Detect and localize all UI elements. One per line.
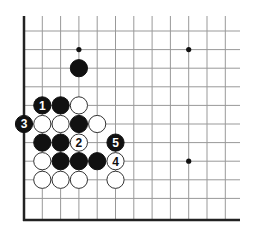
white-stone bbox=[89, 115, 106, 132]
black-stone-icon bbox=[70, 115, 87, 132]
black-stone bbox=[34, 134, 51, 151]
black-stone-icon bbox=[89, 153, 106, 170]
black-stone: 3 bbox=[15, 115, 32, 132]
black-stone bbox=[52, 97, 69, 114]
star-point-icon bbox=[186, 159, 191, 164]
move-number-label: 2 bbox=[76, 136, 83, 150]
black-stone bbox=[70, 115, 87, 132]
black-stone-icon bbox=[52, 97, 69, 114]
star-point-icon bbox=[186, 47, 191, 52]
black-stone-icon bbox=[34, 134, 51, 151]
black-stone bbox=[70, 60, 87, 77]
white-stone bbox=[52, 115, 69, 132]
star-point-icon bbox=[76, 47, 81, 52]
move-number-label: 5 bbox=[112, 136, 119, 150]
black-stone-icon bbox=[70, 60, 87, 77]
move-number-label: 4 bbox=[112, 155, 119, 169]
white-stone-icon bbox=[52, 115, 69, 132]
move-number-label: 3 bbox=[21, 117, 28, 131]
white-stone: 2 bbox=[70, 134, 87, 151]
black-stone bbox=[52, 134, 69, 151]
white-stone-icon bbox=[34, 115, 51, 132]
white-stone-icon bbox=[107, 171, 124, 188]
move-number-label: 1 bbox=[39, 99, 46, 113]
white-stone bbox=[34, 115, 51, 132]
black-stone-icon bbox=[70, 153, 87, 170]
white-stone-icon bbox=[52, 171, 69, 188]
black-stone: 5 bbox=[107, 134, 124, 151]
black-stone-icon bbox=[52, 134, 69, 151]
black-stone-icon bbox=[52, 153, 69, 170]
go-board: 13254 bbox=[0, 0, 257, 232]
white-stone-icon bbox=[89, 115, 106, 132]
white-stone-icon bbox=[34, 153, 51, 170]
white-stone bbox=[52, 171, 69, 188]
black-stone bbox=[89, 153, 106, 170]
white-stone bbox=[70, 97, 87, 114]
black-stone bbox=[52, 153, 69, 170]
white-stone-icon bbox=[34, 171, 51, 188]
white-stone-icon bbox=[70, 171, 87, 188]
white-stone bbox=[34, 153, 51, 170]
black-stone bbox=[70, 153, 87, 170]
white-stone bbox=[34, 171, 51, 188]
black-stone: 1 bbox=[34, 97, 51, 114]
white-stone bbox=[107, 171, 124, 188]
white-stone bbox=[70, 171, 87, 188]
white-stone-icon bbox=[70, 97, 87, 114]
white-stone: 4 bbox=[107, 153, 124, 170]
